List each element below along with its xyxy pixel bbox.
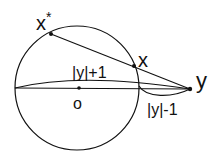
point-o <box>77 86 81 90</box>
label-x-star: x* <box>36 9 52 34</box>
label-lower-arc: |y|-1 <box>147 101 178 118</box>
label-y: y <box>196 68 207 93</box>
geometry-diagram: x* x y o |y|+1 |y|-1 <box>0 0 221 157</box>
label-upper-arc: |y|+1 <box>72 64 107 81</box>
point-x-star <box>49 32 53 36</box>
label-x: x <box>138 49 148 71</box>
label-o: o <box>73 95 82 112</box>
point-x <box>132 64 136 68</box>
point-y <box>188 87 192 91</box>
diameter-line <box>15 88 190 89</box>
